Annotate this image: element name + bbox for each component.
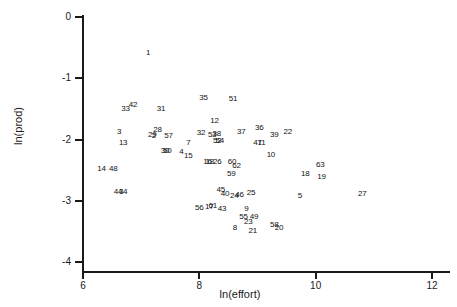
data-point-label: 63 [316, 161, 325, 169]
data-point-label: 59 [227, 170, 236, 178]
data-point-label: 11 [258, 139, 266, 147]
data-point-label: 12 [210, 117, 219, 125]
data-point-label: 31 [157, 105, 166, 113]
data-point-label: 15 [184, 152, 193, 160]
data-point-label: 48 [109, 165, 118, 173]
data-point-label: 5 [298, 192, 302, 200]
data-point-label: 43 [218, 205, 227, 213]
data-point-label: 13 [119, 139, 128, 147]
data-point-label: 42 [129, 101, 138, 109]
data-point-label: 25 [247, 189, 256, 197]
data-point-label: 26 [213, 158, 222, 166]
data-point-label: 56 [195, 204, 204, 212]
data-point-label: 18 [301, 170, 310, 178]
data-point-label: 3 [117, 128, 121, 136]
scatter-plot-figure: 0-1-2-3-4 681012 ln(prod) ln(effort) 135… [0, 0, 457, 307]
data-point-label: 35 [199, 94, 208, 102]
data-point-label: 20 [275, 224, 284, 232]
data-point-label: 39 [270, 131, 279, 139]
data-point-label: 19 [317, 173, 326, 181]
data-point-label: 54 [215, 137, 224, 145]
plot-area: 1355133423112328292573253383736392213752… [0, 0, 457, 307]
data-point-label: 61 [208, 202, 217, 210]
data-point-label: 51 [229, 95, 238, 103]
data-point-label: 46 [235, 191, 244, 199]
data-point-label: 2 [152, 132, 156, 140]
data-point-label: 4 [179, 148, 183, 156]
data-point-label: 10 [267, 151, 276, 159]
data-point-label: 32 [197, 129, 206, 137]
data-point-label: 36 [255, 124, 264, 132]
data-point-label: 1 [146, 49, 150, 57]
data-point-label: 23 [244, 218, 253, 226]
data-point-label: 50 [163, 147, 172, 155]
data-point-label: 7 [186, 139, 190, 147]
data-point-label: 22 [283, 128, 292, 136]
data-point-label: 14 [97, 165, 106, 173]
data-point-label: 27 [358, 190, 367, 198]
data-point-label: 8 [233, 224, 237, 232]
data-point-label: 34 [119, 188, 128, 196]
data-point-label: 57 [164, 132, 173, 140]
data-point-label: 37 [237, 128, 246, 136]
data-point-label: 21 [249, 227, 258, 235]
data-point-label: 40 [221, 190, 230, 198]
